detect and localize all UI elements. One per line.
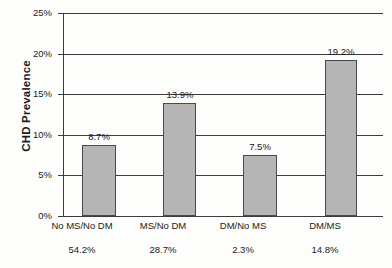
axis-baseline-0 — [63, 216, 383, 217]
bar-ms-no-dm[interactable] — [163, 103, 196, 216]
y-tick-label-15: 15% — [0, 89, 52, 99]
y-tick-label-5: 5% — [0, 170, 52, 180]
x-category-sublabel-0: 54.2% — [42, 244, 122, 255]
y-tick-mark-25 — [58, 13, 63, 14]
x-category-sublabel-1: 28.7% — [123, 244, 203, 255]
gridline-25 — [63, 13, 383, 14]
bar-dm-ms[interactable] — [325, 60, 357, 216]
x-category-label-1: MS/No DM — [123, 220, 203, 231]
bar-dm-no-ms[interactable] — [243, 155, 277, 216]
y-tick-label-25: 25% — [0, 8, 52, 18]
y-tick-mark-20 — [58, 54, 63, 55]
y-tick-label-10: 10% — [0, 130, 52, 140]
y-tick-mark-15 — [58, 94, 63, 95]
y-tick-mark-5 — [58, 175, 63, 176]
x-category-sublabel-3: 14.8% — [285, 244, 365, 255]
bar-value-ms-no-dm: 13.9% — [140, 89, 220, 100]
y-tick-mark-0 — [58, 216, 63, 217]
bar-value-dm-ms: 19.2% — [301, 46, 381, 57]
x-category-label-3: DM/MS — [285, 220, 365, 231]
plot-area: 8.7% 13.9% 7.5% 19.2% — [63, 13, 383, 216]
bar-value-no-ms-no-dm: 8.7% — [59, 131, 139, 142]
chd-prevalence-bar-chart: CHD Prevalence 25% 20% 15% 10% 5% 0% 8.7… — [0, 0, 392, 268]
y-tick-label-20: 20% — [0, 49, 52, 59]
x-category-sublabel-2: 2.3% — [203, 244, 283, 255]
bar-value-dm-no-ms: 7.5% — [220, 141, 300, 152]
x-category-label-0: No MS/No DM — [42, 220, 122, 231]
y-axis-line — [63, 13, 64, 216]
x-category-label-2: DM/No MS — [203, 220, 283, 231]
bar-no-ms-no-dm[interactable] — [82, 145, 116, 216]
